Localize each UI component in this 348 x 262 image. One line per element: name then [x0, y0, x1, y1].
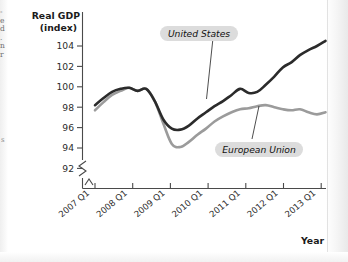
y-tick-label-94: 94: [62, 142, 74, 153]
x-axis-break-icon: [85, 179, 93, 185]
series-label-united-states: United States: [160, 26, 238, 41]
series-line-united-states: [95, 41, 326, 130]
line-chart: Real GDP (index) 104 102 100 98 96 94 92: [0, 0, 348, 262]
y-axis-title-line2: (index): [40, 22, 77, 33]
y-tick-label-92: 92: [62, 163, 74, 174]
series-label-european-union: European Union: [215, 142, 303, 157]
y-axis-title-line1: Real GDP: [32, 10, 81, 21]
x-tick-label-2007: 2007 Q1: [57, 188, 92, 219]
x-tick-label-2008: 2008 Q1: [94, 188, 129, 219]
y-tick-label-104: 104: [56, 40, 74, 51]
x-tick-label-2013: 2013 Q1: [283, 188, 318, 219]
x-axis-title: Year: [300, 235, 324, 246]
callout-leader-united-states: [207, 38, 214, 99]
x-tick-label-2011: 2011 Q1: [207, 188, 242, 219]
series-label-text-us: United States: [168, 28, 230, 39]
x-tick-label-2012: 2012 Q1: [245, 188, 280, 219]
series-label-text-eu: European Union: [222, 144, 296, 155]
y-tick-label-100: 100: [56, 81, 74, 92]
x-tick-label-2009: 2009 Q1: [132, 188, 167, 219]
x-tick-label-2010: 2010 Q1: [170, 188, 205, 219]
figure-canvas: - e d . n r s Real GDP (index) 104 102 1…: [0, 0, 348, 262]
callout-leader-european-union: [252, 106, 259, 139]
x-axis-tick-labels: 2007 Q1 2008 Q1 2009 Q1 2010 Q1 2011 Q1 …: [57, 188, 318, 219]
y-tick-label-96: 96: [62, 122, 74, 133]
y-tick-label-102: 102: [56, 61, 74, 72]
series-line-european-union: [95, 88, 326, 147]
y-axis-ticks: 104 102 100 98 96 94 92: [56, 40, 82, 173]
x-axis-ticks: [95, 183, 321, 189]
y-tick-label-98: 98: [62, 102, 74, 113]
